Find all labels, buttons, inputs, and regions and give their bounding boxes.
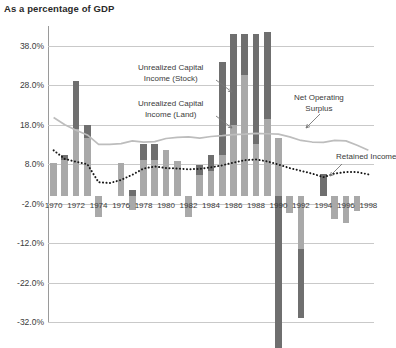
annotation-retained-income: Retained Income: [336, 151, 396, 162]
bar-land: [118, 163, 125, 196]
x-axis-tick-label: 1980: [157, 201, 175, 210]
bar-stock: [253, 34, 260, 145]
x-axis-tick-label: 1990: [270, 201, 288, 210]
gridline: [48, 322, 374, 323]
gridline: [48, 46, 374, 47]
chart-title: As a percentage of GDP: [4, 3, 114, 14]
x-axis-tick-label: 1986: [225, 201, 243, 210]
gridline: [48, 243, 374, 244]
x-axis-labels: 1970197219741976197819801982198419861988…: [48, 201, 374, 215]
annotation-stock-line1: Unrealized Capital: [138, 62, 203, 73]
bar-stock: [219, 62, 226, 155]
x-axis-tick-label: 1972: [67, 201, 85, 210]
annotation-stock-line2: Income (Stock): [138, 73, 203, 84]
bar-land: [275, 138, 282, 195]
x-axis-tick-label: 1982: [180, 201, 198, 210]
x-axis-tick-label: 1992: [292, 201, 310, 210]
bar-land: [196, 175, 203, 196]
x-axis-tick-label: 1984: [202, 201, 220, 210]
bar-land: [50, 163, 57, 195]
bar-stock: [140, 144, 147, 160]
y-axis-tick-label: -22.0%: [0, 278, 44, 288]
annotation-retained-line1: Retained Income: [336, 151, 396, 162]
plot-area: [48, 26, 374, 322]
y-axis-tick-label: 38.0%: [0, 41, 44, 51]
annotation-land-line2: Income (Land): [138, 109, 203, 120]
bar-land: [230, 125, 237, 196]
bar-land: [264, 119, 271, 196]
bar-stock: [264, 32, 271, 119]
x-axis-tick-label: 1998: [359, 201, 377, 210]
bar-stock: [151, 144, 158, 160]
y-axis-tick-label: 18.0%: [0, 120, 44, 130]
y-axis-labels: 38.0%28.0%18.0%8.0%-2.0%-12.0%-22.0%-32.…: [0, 26, 44, 322]
bar-stock: [196, 165, 203, 175]
x-axis-tick-label: 1976: [112, 201, 130, 210]
bar-stock: [208, 155, 215, 171]
bar-stock: [61, 155, 68, 160]
annotation-net-operating-surplus: Net Operating Surplus: [294, 92, 344, 114]
x-axis-tick-label: 1974: [90, 201, 108, 210]
annotation-unrealized-capital-income-stock: Unrealized Capital Income (Stock): [138, 62, 203, 84]
annotation-nos-line1: Net Operating: [294, 92, 344, 103]
y-axis-tick-label: 28.0%: [0, 80, 44, 90]
y-axis-tick-label: -2.0%: [0, 199, 44, 209]
gridline: [48, 125, 374, 126]
bar-land: [73, 129, 80, 196]
bar-land: [241, 75, 248, 195]
annotation-land-line1: Unrealized Capital: [138, 98, 203, 109]
gridline: [48, 85, 374, 86]
y-axis-tick-label: 8.0%: [0, 159, 44, 169]
bar-land: [219, 155, 226, 196]
y-axis-tick-label: -32.0%: [0, 317, 44, 327]
y-axis-tick-label: -12.0%: [0, 238, 44, 248]
annotation-unrealized-capital-income-land: Unrealized Capital Income (Land): [138, 98, 203, 120]
bar-stock: [84, 125, 91, 139]
bar-stock: [320, 174, 327, 196]
bar-land: [163, 150, 170, 195]
x-axis-tick-label: 1970: [45, 201, 63, 210]
bar-stock: [298, 249, 305, 318]
bar-land: [84, 138, 91, 195]
x-axis-tick-label: 1988: [247, 201, 265, 210]
bar-stock: [241, 34, 248, 75]
bar-land: [208, 171, 215, 196]
bar-land: [174, 161, 181, 196]
x-axis-tick-label: 1978: [135, 201, 153, 210]
bar-land: [140, 160, 147, 196]
bar-land: [253, 144, 260, 195]
x-axis-tick-label: 1994: [315, 201, 333, 210]
bar-land: [61, 160, 68, 196]
annotation-nos-line2: Surplus: [294, 103, 344, 114]
x-axis-tick-label: 1996: [337, 201, 355, 210]
bar-land: [151, 160, 158, 196]
bar-stock: [230, 34, 237, 125]
bar-stock: [73, 81, 80, 128]
bar-stock: [275, 196, 282, 348]
gridline: [48, 283, 374, 284]
